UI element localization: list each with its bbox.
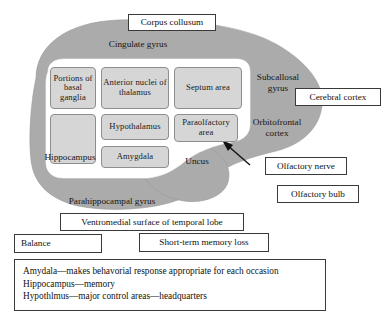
legend-panel: Amydala—makes behavorial response approp… bbox=[14, 259, 326, 311]
callout-corpus-collusum[interactable]: Corpus collusum bbox=[128, 14, 216, 31]
region-anterior-nuclei-of-thalamus[interactable]: Anterior nuclei of thalamus bbox=[101, 67, 169, 109]
label-cingulate-gyrus: Cingulate gyrus bbox=[78, 39, 198, 50]
region-portions-of-basal-ganglia[interactable]: Portions of basal ganglia bbox=[50, 67, 96, 109]
label-parahippocampal-gyrus: Parahippocampal gyrus bbox=[52, 196, 172, 207]
legend-line-hypothalamus: Hypothlmus—major control areas—headquart… bbox=[23, 290, 317, 303]
parahippocampal-gyrus-text: Parahippocampal gyrus bbox=[69, 196, 156, 206]
callout-ventromedial-surface[interactable]: Ventromedial surface of temporal lobe bbox=[60, 213, 244, 231]
callout-olfactory-nerve[interactable]: Olfactory nerve bbox=[265, 157, 347, 175]
legend-line-amygdala: Amydala—makes behavorial response approp… bbox=[23, 265, 317, 278]
subcallosal-gyrus-text: Subcallosal gyrus bbox=[257, 72, 299, 93]
region-label: Septum area bbox=[186, 83, 230, 93]
legend-line-hippocampus: Hippocampus—memory bbox=[23, 278, 317, 291]
region-amygdala[interactable]: Amygdala bbox=[101, 146, 169, 168]
callout-balance[interactable]: Balance bbox=[14, 234, 102, 253]
ventromedial-surface-text: Ventromedial surface of temporal lobe bbox=[81, 217, 222, 228]
cerebral-cortex-text: Cerebral cortex bbox=[310, 92, 367, 103]
label-hippocampus: Hippocampus bbox=[36, 152, 104, 163]
callout-olfactory-bulb[interactable]: Olfactory bulb bbox=[277, 185, 359, 203]
limbic-system-figure: Portions of basal ganglia Anterior nucle… bbox=[0, 0, 391, 320]
orbitofrontal-cortex-text: Orbitofrontal cortex bbox=[253, 117, 301, 138]
hippocampus-text: Hippocampus bbox=[44, 152, 95, 162]
region-paraolfactory-area[interactable]: Paraolfactory area bbox=[174, 114, 238, 142]
olfactory-nerve-text: Olfactory nerve bbox=[277, 161, 335, 172]
callout-cerebral-cortex[interactable]: Cerebral cortex bbox=[295, 88, 381, 106]
region-label: Portions of basal ganglia bbox=[51, 74, 95, 103]
balance-text: Balance bbox=[21, 238, 51, 249]
callout-short-term-memory-loss[interactable]: Short-term memory loss bbox=[139, 233, 269, 252]
uncus-text: Uncus bbox=[185, 156, 208, 166]
label-uncus: Uncus bbox=[175, 156, 219, 167]
label-orbitofrontal-cortex: Orbitofrontal cortex bbox=[246, 117, 308, 138]
region-label: Anterior nuclei of thalamus bbox=[102, 78, 168, 97]
olfactory-bulb-text: Olfactory bulb bbox=[291, 189, 345, 200]
region-label: Hypothalamus bbox=[109, 122, 160, 132]
short-term-memory-loss-text: Short-term memory loss bbox=[159, 237, 248, 248]
region-label: Amygdala bbox=[117, 152, 154, 162]
corpus-collusum-text: Corpus collusum bbox=[141, 17, 204, 28]
region-septum-area[interactable]: Septum area bbox=[174, 67, 242, 109]
cingulate-gyrus-text: Cingulate gyrus bbox=[109, 39, 167, 49]
region-hypothalamus[interactable]: Hypothalamus bbox=[101, 114, 169, 140]
region-label: Paraolfactory area bbox=[175, 118, 237, 137]
